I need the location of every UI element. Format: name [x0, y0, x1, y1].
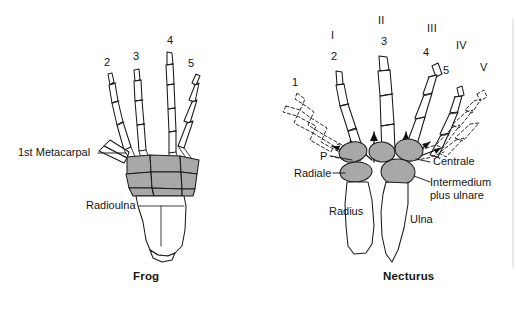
- frog-digit-2: [108, 73, 131, 150]
- necturus-label-centrale: Centrale: [433, 155, 475, 167]
- necturus-digit-5-dashed: [436, 90, 487, 157]
- frog-digit-label-2: 2: [104, 56, 110, 68]
- necturus-digit-1-dashed: [283, 93, 344, 153]
- scan-edge-artifact: [512, 18, 514, 268]
- necturus-digit-3: [378, 56, 395, 154]
- necturus-digit-label-5: 5: [443, 64, 449, 76]
- frog-digit-label-3: 3: [133, 50, 139, 62]
- necturus-digit-label-4: 4: [423, 46, 429, 58]
- necturus-roman-label-II: II: [378, 14, 385, 26]
- frog-radioulna: [136, 196, 186, 262]
- anatomy-figure: 2 3 4 5 1st Metacarpal Radioulna Frog I …: [0, 0, 516, 312]
- necturus-caption: Necturus: [383, 270, 434, 283]
- necturus-label-radius: Radius: [329, 205, 363, 217]
- necturus-roman-label-I: I: [331, 29, 334, 41]
- frog-label-first-metacarpal: 1st Metacarpal: [18, 146, 90, 158]
- frog-caption: Frog: [133, 270, 159, 283]
- necturus-roman-label-IV: IV: [456, 39, 467, 51]
- frog-digit-label-4: 4: [167, 34, 173, 46]
- necturus-digit-label-3: 3: [381, 35, 387, 47]
- necturus-label-ulna: Ulna: [410, 213, 433, 225]
- frog-carpals: [126, 155, 199, 196]
- frog-digit-label-5: 5: [188, 57, 194, 69]
- necturus-label-intermedium-plus-ulnare: Intermedium plus ulnare: [430, 176, 491, 202]
- frog-digit-3: [134, 69, 146, 151]
- necturus-digit-label-1: 1: [292, 76, 298, 88]
- necturus-ulna: [381, 182, 408, 262]
- frog-label-radioulna: Radioulna: [86, 199, 136, 211]
- frog-digit-5: [178, 74, 200, 148]
- necturus-roman-label-V: V: [480, 61, 488, 73]
- frog-illustration: [99, 52, 200, 262]
- necturus-label-intermedium-line1: Intermedium: [430, 176, 491, 189]
- necturus-label-intermedium-line2: plus ulnare: [430, 189, 491, 202]
- necturus-digit-4: [406, 63, 442, 148]
- necturus-label-radiale: Radiale: [294, 167, 331, 179]
- frog-digit-4: [166, 52, 176, 153]
- necturus-digit-label-2: 2: [331, 50, 337, 62]
- necturus-radius: [345, 182, 374, 254]
- necturus-label-p: P: [320, 150, 327, 162]
- necturus-roman-label-III: III: [427, 22, 437, 34]
